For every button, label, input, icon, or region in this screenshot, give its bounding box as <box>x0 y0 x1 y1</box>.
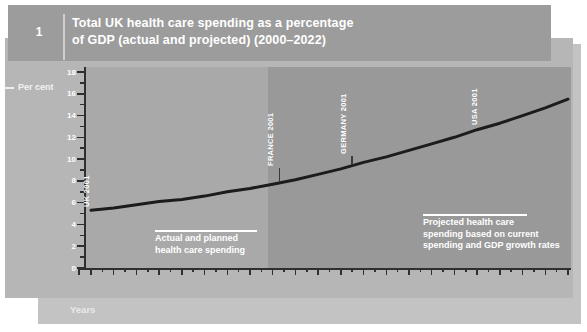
annotation-line: Actual and planned <box>155 233 245 245</box>
spending-line-svg <box>0 0 587 332</box>
annotation-actual: Actual and plannedhealth care spending <box>155 233 245 256</box>
annotation-line: health care spending <box>155 245 245 257</box>
annotation-overline-actual <box>155 230 257 232</box>
annotation-line: spending based on current <box>423 229 560 241</box>
spending-line <box>91 99 568 210</box>
annotation-line: spending and GDP growth rates <box>423 240 560 252</box>
reference-label: FRANCE 2001 <box>266 113 275 166</box>
annotation-line: Projected health care <box>423 217 560 229</box>
reference-label: USA 2001 <box>470 88 479 125</box>
annotation-projected: Projected health carespending based on c… <box>423 217 560 252</box>
reference-leader-tick <box>279 168 281 182</box>
reference-leader-tick <box>351 156 353 165</box>
reference-label: GERMANY 2001 <box>339 93 348 154</box>
reference-label: UK 2001 <box>82 175 91 207</box>
annotation-overline-projected <box>423 214 527 216</box>
